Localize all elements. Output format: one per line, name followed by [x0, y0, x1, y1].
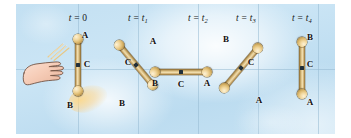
- time-label-panel-4: t = t4: [292, 13, 312, 23]
- time-label-panel-1: t = t1: [128, 13, 148, 23]
- grid-line-vertical-5: [318, 4, 319, 134]
- rod-end-ball-b: [202, 67, 212, 77]
- point-label-b-panel-0: B: [67, 100, 73, 110]
- point-label-c-panel-2: C: [178, 79, 185, 89]
- point-label-b-panel-3: B: [223, 34, 229, 44]
- time-label-sub-4: 4: [308, 17, 311, 24]
- time-label-panel-3: t = t3: [236, 13, 256, 23]
- rod-end-ball-b: [297, 37, 307, 47]
- point-label-b-panel-4: B: [307, 32, 313, 42]
- point-label-a-panel-3: A: [256, 95, 263, 105]
- center-of-mass-mark: [179, 70, 183, 74]
- point-label-c-panel-1: C: [125, 57, 132, 67]
- physics-figure-rotating-rod: t = 0 t = t1 t = t2 t = t3 t = t4: [0, 0, 351, 138]
- time-label-sub-2: 2: [204, 17, 207, 24]
- point-label-a-panel-2: A: [204, 78, 211, 88]
- point-label-c-panel-0: C: [84, 59, 91, 69]
- time-label-panel-0: t = 0: [69, 13, 88, 23]
- time-label-sub-1: 1: [144, 17, 147, 24]
- point-label-c-panel-3: C: [248, 57, 255, 67]
- point-label-a-panel-1: A: [150, 36, 157, 46]
- time-label-sub-3: 3: [252, 17, 255, 24]
- point-label-b-panel-2: B: [152, 78, 158, 88]
- point-label-a-panel-4: A: [307, 97, 314, 107]
- rod-end-ball-b: [73, 86, 83, 96]
- rod-end-ball-a: [297, 89, 307, 99]
- grid-line-vertical-4: [258, 4, 259, 134]
- time-label-panel-2: t = t2: [188, 13, 208, 23]
- point-label-a-panel-0: A: [82, 30, 89, 40]
- point-label-c-panel-4: C: [307, 59, 314, 69]
- center-of-mass-mark: [300, 66, 304, 70]
- center-of-mass-mark: [76, 63, 80, 67]
- point-label-b-panel-1: B: [119, 98, 125, 108]
- rod-end-ball-a: [150, 67, 160, 77]
- time-label-value-0: 0: [82, 13, 87, 23]
- hand-icon: [22, 52, 68, 92]
